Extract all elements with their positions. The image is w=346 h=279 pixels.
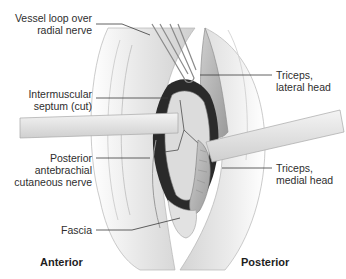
label-vessel-loop: Vessel loop over radial nerve — [0, 12, 92, 36]
label-triceps-lateral: Triceps, lateral head — [276, 69, 346, 93]
label-line: antebrachial — [0, 164, 92, 176]
label-line: Intermuscular — [0, 88, 92, 100]
label-line: cutaneous nerve — [0, 176, 92, 188]
label-line: Triceps, — [276, 162, 346, 174]
label-posterior-antebrachial-nerve: Posterior antebrachial cutaneous nerve — [0, 152, 92, 188]
orientation-posterior: Posterior — [241, 256, 289, 268]
label-line: Vessel loop over — [0, 12, 92, 24]
label-intermuscular-septum: Intermuscular septum (cut) — [0, 88, 92, 112]
label-line: radial nerve — [0, 24, 92, 36]
label-line: medial head — [276, 174, 346, 186]
label-line: Triceps, — [276, 69, 346, 81]
orientation-anterior: Anterior — [40, 256, 83, 268]
label-line: Fascia — [0, 224, 92, 236]
label-line: lateral head — [276, 81, 346, 93]
label-fascia: Fascia — [0, 224, 92, 236]
label-line: Posterior — [0, 152, 92, 164]
label-triceps-medial: Triceps, medial head — [276, 162, 346, 186]
label-line: septum (cut) — [0, 100, 92, 112]
surgical-illustration — [0, 0, 346, 279]
